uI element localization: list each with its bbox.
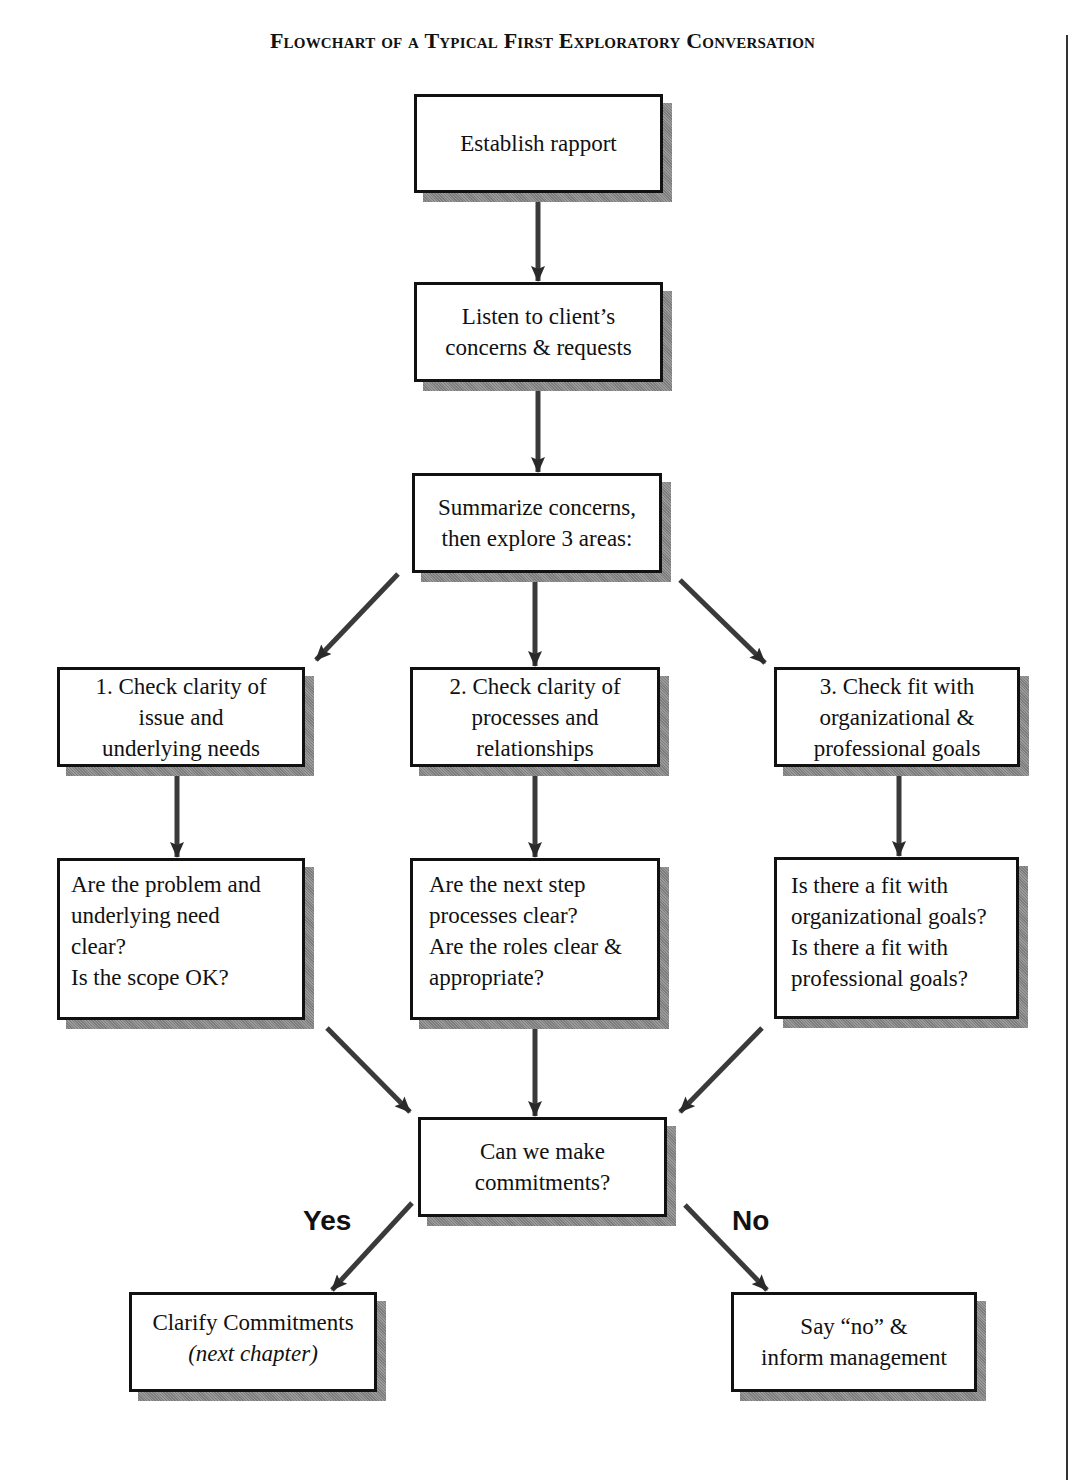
edge-label-no: No <box>732 1205 769 1237</box>
node-check-fit-goals: 3. Check fit with organizational & profe… <box>774 667 1020 767</box>
node-text: Is there a fit with <box>791 870 1016 901</box>
node-text: Summarize concerns, <box>438 492 636 523</box>
node-text: processes clear? <box>429 900 657 931</box>
node-subtext: (next chapter) <box>188 1338 318 1369</box>
node-text: Are the next step <box>429 869 657 900</box>
node-text: organizational & <box>820 702 975 733</box>
node-say-no: Say “no” & inform management <box>731 1292 977 1392</box>
node-text: issue and <box>139 702 224 733</box>
edge-label-yes: Yes <box>303 1205 351 1237</box>
node-text: underlying need <box>71 900 302 931</box>
node-text: relationships <box>476 733 594 764</box>
node-text: commitments? <box>475 1167 610 1198</box>
node-clarify-commitments: Clarify Commitments (next chapter) <box>129 1292 377 1392</box>
node-text: underlying needs <box>102 733 260 764</box>
node-question-fit-goals: Is there a fit with organizational goals… <box>774 857 1019 1019</box>
node-check-clarity-processes: 2. Check clarity of processes and relati… <box>410 667 660 767</box>
node-establish-rapport: Establish rapport <box>414 94 663 193</box>
node-summarize-concerns: Summarize concerns, then explore 3 areas… <box>412 473 662 573</box>
node-text: Say “no” & <box>800 1311 907 1342</box>
node-text: inform management <box>761 1342 947 1373</box>
node-text: Is there a fit with <box>791 932 1016 963</box>
node-check-clarity-issue: 1. Check clarity of issue and underlying… <box>57 667 305 767</box>
node-decision-commitments: Can we make commitments? <box>418 1117 667 1217</box>
node-text: appropriate? <box>429 962 657 993</box>
node-text: Listen to client’s <box>462 301 615 332</box>
node-text: Is the scope OK? <box>71 962 302 993</box>
node-text: 1. Check clarity of <box>95 671 266 702</box>
node-text: 2. Check clarity of <box>449 671 620 702</box>
node-text: Are the roles clear & <box>429 931 657 962</box>
node-text: concerns & requests <box>445 332 632 363</box>
node-text: Clarify Commitments <box>152 1307 353 1338</box>
arrow-question1-to-decision <box>327 1028 410 1112</box>
arrow-question3-to-decision <box>680 1028 762 1112</box>
node-text: professional goals <box>814 733 981 764</box>
node-text: processes and <box>471 702 598 733</box>
node-text: clear? <box>71 931 302 962</box>
node-listen-to-client: Listen to client’s concerns & requests <box>414 282 663 382</box>
node-text: organizational goals? <box>791 901 1016 932</box>
node-text: Establish rapport <box>460 128 617 159</box>
node-text: Are the problem and <box>71 869 302 900</box>
node-question-problem-scope: Are the problem and underlying need clea… <box>57 858 305 1020</box>
node-text: 3. Check fit with <box>820 671 975 702</box>
node-question-processes-roles: Are the next step processes clear? Are t… <box>410 858 660 1020</box>
node-text: then explore 3 areas: <box>442 523 633 554</box>
node-text: Can we make <box>480 1136 605 1167</box>
arrow-summarize-to-check1 <box>316 574 398 660</box>
node-text: professional goals? <box>791 963 1016 994</box>
arrow-summarize-to-check3 <box>680 580 765 663</box>
